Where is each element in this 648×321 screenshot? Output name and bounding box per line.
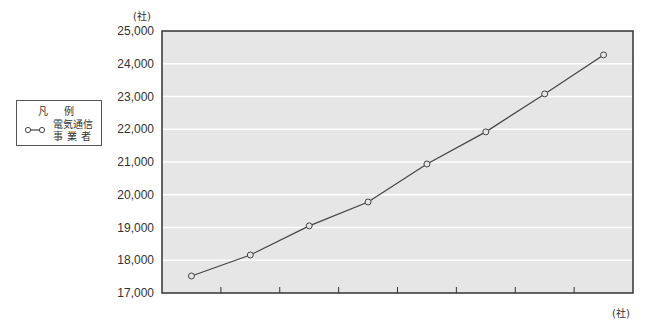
y-tick-label: 22,000 <box>117 122 154 136</box>
data-point-marker <box>601 52 607 58</box>
y-tick-label: 23,000 <box>117 90 154 104</box>
y-tick-label: 18,000 <box>117 253 154 267</box>
data-point-marker <box>542 91 548 97</box>
data-point-marker <box>188 273 194 279</box>
y-tick-label: 24,000 <box>117 57 154 71</box>
data-point-marker <box>306 223 312 229</box>
y-tick-label: 25,000 <box>117 24 154 38</box>
y-tick-label: 21,000 <box>117 155 154 169</box>
y-tick-label: 17,000 <box>117 286 154 300</box>
y-tick-label: 20,000 <box>117 188 154 202</box>
y-tick-label: 19,000 <box>117 221 154 235</box>
data-point-marker <box>483 129 489 135</box>
line-chart: 17,00018,00019,00020,00021,00022,00023,0… <box>0 0 648 321</box>
data-point-marker <box>424 161 430 167</box>
data-point-marker <box>247 252 253 258</box>
data-point-marker <box>365 199 371 205</box>
